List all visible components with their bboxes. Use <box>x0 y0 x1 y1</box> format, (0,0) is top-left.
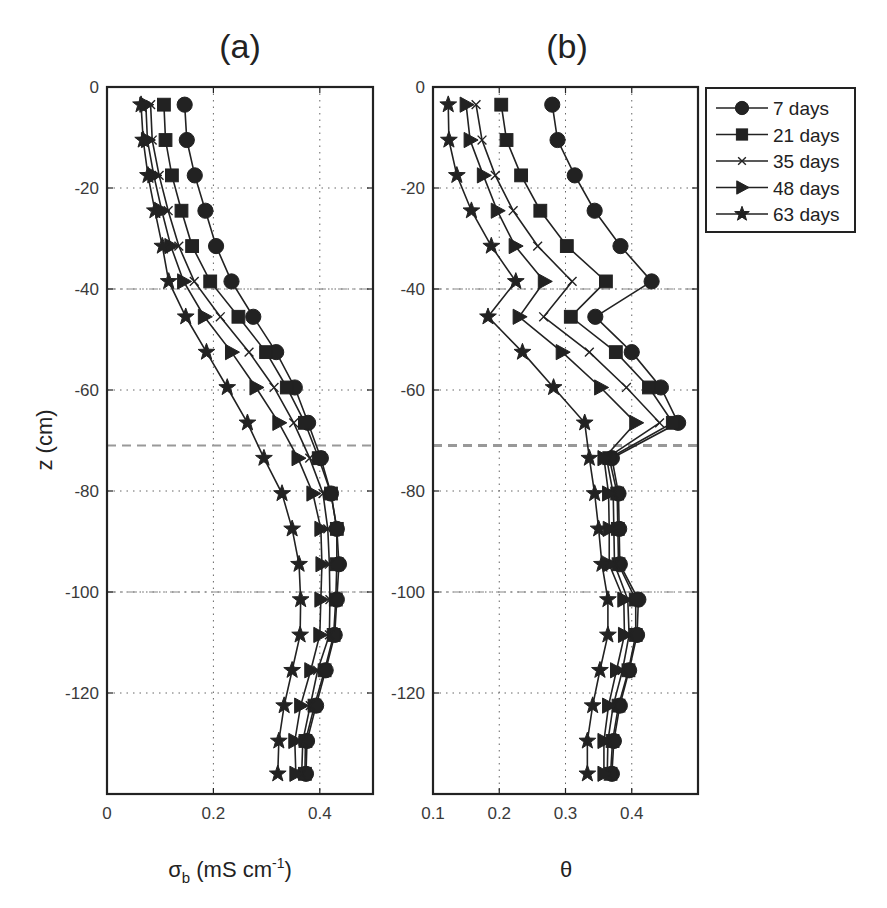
data-point-square <box>643 381 656 394</box>
data-point-circle <box>246 309 261 324</box>
data-point-square <box>330 558 343 571</box>
data-point-triangle-right <box>178 274 192 289</box>
panel-b-axes-frame <box>433 87 698 794</box>
data-point-square <box>564 310 577 323</box>
data-point-square <box>158 98 171 111</box>
data-point-circle <box>613 238 628 253</box>
data-point-star <box>256 449 273 465</box>
data-point-x <box>289 418 298 427</box>
legend-label: 63 days <box>773 204 840 225</box>
data-point-star <box>198 343 215 359</box>
xlabel-subscript: b <box>182 869 190 886</box>
data-point-star <box>463 202 480 218</box>
x-tick-label: 0.4 <box>620 804 644 823</box>
xlabel-close: ) <box>284 857 291 882</box>
legend-label: 7 days <box>773 98 829 119</box>
series-63-days <box>440 96 616 781</box>
data-point-square <box>299 416 312 429</box>
panel-a-grid <box>107 87 373 794</box>
x-tick-label: 0 <box>102 804 111 823</box>
xlabel-units: (mS cm <box>190 857 272 882</box>
xlabel-symbol: σ <box>168 857 182 882</box>
data-point-triangle-right <box>273 415 287 430</box>
x-tick-label: 0.1 <box>421 804 445 823</box>
data-point-circle <box>224 274 239 289</box>
data-point-square <box>260 346 273 359</box>
data-point-star <box>579 765 596 781</box>
legend-label: 35 days <box>773 151 840 172</box>
panel-a-reference-lines <box>107 289 373 592</box>
panel-b-xlabel: θ <box>560 857 572 882</box>
data-point-triangle-right <box>316 557 330 572</box>
data-point-star <box>219 379 236 395</box>
y-tick-label: 0 <box>416 78 425 97</box>
y-tick-label: 0 <box>90 78 99 97</box>
data-point-star <box>239 414 256 430</box>
data-point-square <box>330 522 343 535</box>
data-point-square <box>166 169 179 182</box>
legend-label: 48 days <box>773 178 840 199</box>
data-point-star <box>269 765 286 781</box>
data-point-star <box>507 273 524 289</box>
y-tick-label: -60 <box>74 381 99 400</box>
data-point-circle <box>550 132 565 147</box>
panel-a-ticks: 00.20.40-20-40-60-80-100-120 <box>65 78 373 823</box>
data-point-circle <box>588 309 603 324</box>
data-point-triangle-right <box>491 203 505 218</box>
y-tick-label: -120 <box>65 684 99 703</box>
data-point-square <box>159 134 172 147</box>
data-point-triangle-right <box>464 132 478 147</box>
x-tick-label: 0.4 <box>308 804 332 823</box>
panel-b-series <box>440 96 686 782</box>
data-point-square <box>560 240 573 253</box>
y-tick-label: -100 <box>65 583 99 602</box>
y-tick-label: -40 <box>74 280 99 299</box>
data-point-x <box>585 348 594 357</box>
panel-b: (b) 0.10.20.30.40-20-40-60-80-100-120 θ <box>391 27 698 882</box>
data-point-triangle-right <box>630 415 644 430</box>
legend-marker-square <box>736 129 747 140</box>
legend-label: 21 days <box>773 125 840 146</box>
data-point-square <box>534 204 547 217</box>
data-point-circle <box>179 132 194 147</box>
data-point-star <box>160 273 177 289</box>
data-point-square <box>329 593 342 606</box>
panel-a-xlabel: σb (mS cm-1) <box>168 855 292 886</box>
data-point-star <box>483 237 500 253</box>
data-point-star <box>441 131 458 147</box>
data-point-circle <box>545 97 560 112</box>
y-tick-label: -60 <box>400 381 425 400</box>
panel-b-ticks: 0.10.20.30.40-20-40-60-80-100-120 <box>391 78 698 823</box>
data-point-circle <box>567 168 582 183</box>
data-point-square <box>280 381 293 394</box>
data-point-star <box>600 626 617 642</box>
y-tick-label: -20 <box>74 179 99 198</box>
data-point-triangle-right <box>314 627 328 642</box>
panel-a-axes-frame <box>107 87 373 794</box>
data-point-square <box>500 134 513 147</box>
x-tick-label: 0.3 <box>554 804 578 823</box>
data-point-square <box>204 275 217 288</box>
data-point-triangle-right <box>477 168 491 183</box>
data-point-star <box>284 661 301 677</box>
legend: 7 days21 days35 days48 days63 days <box>706 88 855 232</box>
y-tick-label: -40 <box>400 280 425 299</box>
series-48-days <box>460 97 644 781</box>
data-point-triangle-right <box>315 592 329 607</box>
data-point-x <box>509 206 518 215</box>
panel-a-series <box>133 96 347 782</box>
x-tick-label: 0.2 <box>487 804 511 823</box>
data-point-triangle-right <box>198 309 212 324</box>
data-point-circle <box>208 238 223 253</box>
data-point-square <box>515 169 528 182</box>
data-point-circle <box>198 203 213 218</box>
data-point-square <box>175 204 188 217</box>
data-point-square <box>318 664 331 677</box>
data-point-star <box>292 626 309 642</box>
series-7-days <box>177 97 346 781</box>
y-tick-label: -120 <box>391 684 425 703</box>
x-tick-label: 0.2 <box>202 804 226 823</box>
data-point-star <box>177 308 194 324</box>
data-point-x <box>216 312 225 321</box>
data-point-x <box>539 312 548 321</box>
